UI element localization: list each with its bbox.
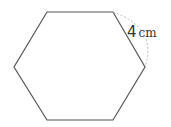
hexagon (14, 12, 145, 120)
side-length-value: 4 (127, 23, 137, 41)
side-length-label: 4cm (127, 22, 157, 41)
hexagon-diagram (0, 0, 171, 127)
side-length-unit: cm (139, 26, 157, 40)
